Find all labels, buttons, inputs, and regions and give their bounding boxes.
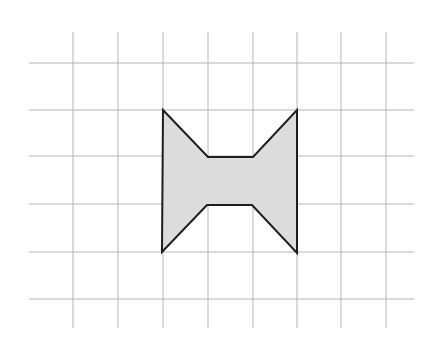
shaded-bowtie-polygon: [162, 110, 297, 253]
grid-diagram: [0, 0, 436, 353]
